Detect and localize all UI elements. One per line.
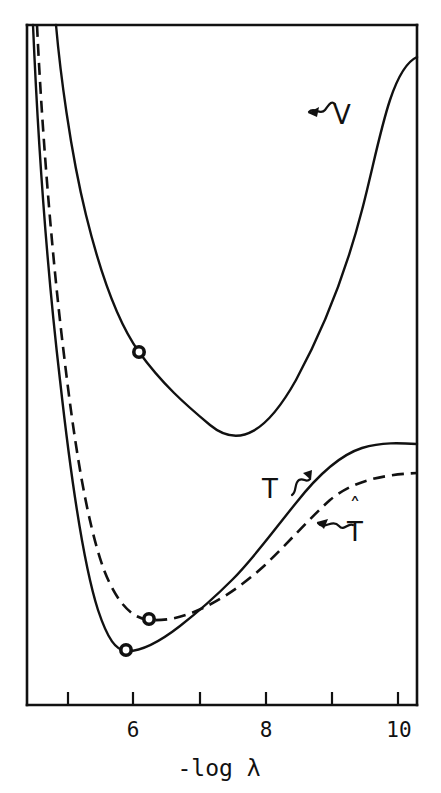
plot-frame bbox=[27, 25, 417, 705]
v-annotation: V bbox=[308, 100, 351, 130]
t-annotation: T bbox=[261, 470, 312, 504]
that-annotation-hat-icon: ˄ bbox=[350, 493, 361, 518]
series-t-hat-minimum-marker bbox=[144, 614, 154, 624]
that-annotation: ˄ T bbox=[317, 493, 363, 547]
series-line-v bbox=[56, 25, 417, 436]
series-v-minimum-marker bbox=[134, 347, 144, 357]
x-axis-tick-labels: 6 8 10 bbox=[127, 718, 412, 742]
v-annotation-label: V bbox=[333, 100, 351, 130]
line-chart: 6 8 10 -log λ V T bbox=[0, 0, 441, 793]
series-t-minimum-marker bbox=[121, 645, 131, 655]
x-tick-label-6: 6 bbox=[127, 718, 140, 742]
x-tick-label-8: 8 bbox=[260, 718, 273, 742]
x-axis-title: -log λ bbox=[177, 755, 260, 781]
x-tick-label-10: 10 bbox=[386, 718, 411, 742]
x-axis-ticks bbox=[68, 692, 398, 705]
t-annotation-squiggle bbox=[292, 479, 310, 495]
t-annotation-arrowhead bbox=[303, 470, 312, 480]
that-annotation-label: T bbox=[346, 517, 363, 547]
t-annotation-label: T bbox=[261, 474, 278, 504]
series-line-t bbox=[33, 25, 417, 651]
figure-container: 6 8 10 -log λ V T bbox=[0, 0, 441, 793]
